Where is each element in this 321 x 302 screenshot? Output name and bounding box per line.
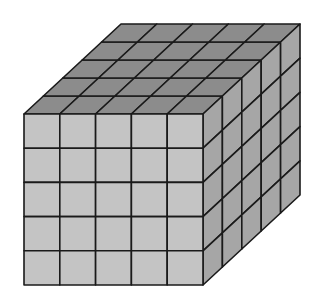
front-face-cell xyxy=(24,182,60,216)
front-face-cell xyxy=(131,182,167,216)
front-face-cell xyxy=(167,148,203,182)
front-face-cell xyxy=(60,148,96,182)
front-face-cell xyxy=(167,114,203,148)
front-face-cell xyxy=(60,182,96,216)
front-face-cell xyxy=(24,251,60,285)
front-face-cell xyxy=(96,114,132,148)
front-face-cell xyxy=(24,217,60,251)
front-face-cell xyxy=(131,251,167,285)
front-face-cell xyxy=(96,182,132,216)
front-face-cell xyxy=(60,251,96,285)
front-face-cell xyxy=(96,217,132,251)
front-face-cell xyxy=(131,114,167,148)
front-face-cell xyxy=(131,217,167,251)
front-face-cell xyxy=(96,251,132,285)
front-face-cell xyxy=(167,182,203,216)
front-face-cell xyxy=(131,148,167,182)
front-face-cell xyxy=(96,148,132,182)
front-face-cell xyxy=(24,148,60,182)
front-face-cell xyxy=(60,114,96,148)
front-face-cell xyxy=(24,114,60,148)
front-face-cell xyxy=(60,217,96,251)
front-face-cell xyxy=(167,217,203,251)
cube-figure xyxy=(0,0,321,302)
cube-diagram xyxy=(0,0,321,302)
front-face-cell xyxy=(167,251,203,285)
